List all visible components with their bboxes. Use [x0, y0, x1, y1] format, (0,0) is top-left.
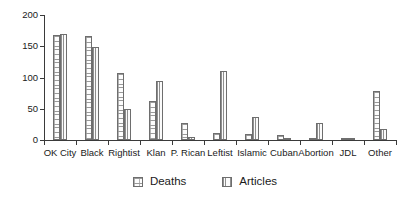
bar-deaths-black	[85, 36, 92, 140]
chart-legend: Deaths Articles	[0, 176, 410, 188]
y-tick-label: 0	[33, 135, 38, 145]
x-tick-mark	[300, 141, 301, 145]
x-axis-line	[44, 140, 397, 141]
bar-deaths-klan	[149, 101, 156, 140]
y-tick-label: 100	[22, 73, 38, 83]
legend-label-articles: Articles	[239, 176, 277, 188]
legend-item-deaths: Deaths	[133, 176, 186, 188]
x-tick-mark	[332, 141, 333, 145]
bar-deaths-islamic	[245, 134, 252, 140]
bar-deaths-abortion	[309, 138, 316, 140]
bar-deaths-cuban	[277, 135, 284, 140]
bar-deaths-ok-city	[53, 35, 60, 140]
bar-articles-other	[380, 129, 387, 140]
bar-articles-black	[92, 47, 99, 140]
bar-articles-rightist	[124, 109, 131, 140]
bar-articles-cuban	[284, 138, 291, 140]
y-tick-label: 150	[22, 41, 38, 51]
bar-articles-abortion	[316, 123, 323, 141]
y-tick-label: 50	[27, 104, 38, 114]
bar-deaths-leftist	[213, 133, 220, 141]
y-tick-label: 200	[22, 10, 38, 20]
x-tick-mark	[268, 141, 269, 145]
plot-area	[44, 15, 396, 140]
bar-articles-leftist	[220, 71, 227, 140]
bar-articles-islamic	[252, 117, 259, 140]
x-tick-mark	[108, 141, 109, 145]
x-tick-mark	[364, 141, 365, 145]
bar-articles-klan	[156, 81, 163, 140]
x-tick-mark	[172, 141, 173, 145]
articles-swatch-icon	[222, 177, 232, 187]
bar-deaths-p-rican	[181, 123, 188, 141]
x-tick-mark	[236, 141, 237, 145]
bar-articles-jdl	[348, 138, 355, 140]
bar-deaths-other	[373, 91, 380, 140]
x-tick-mark	[396, 141, 397, 145]
x-tick-label: Other	[352, 147, 408, 158]
x-tick-mark	[44, 141, 45, 145]
legend-item-articles: Articles	[222, 176, 277, 188]
bar-deaths-jdl	[341, 138, 348, 141]
x-tick-mark	[76, 141, 77, 145]
bar-articles-p-rican	[188, 137, 195, 140]
bar-chart: 050100150200 OK CityBlackRightistKlanP. …	[0, 0, 410, 204]
x-tick-mark	[140, 141, 141, 145]
legend-label-deaths: Deaths	[150, 176, 186, 188]
bar-deaths-rightist	[117, 73, 124, 140]
x-tick-mark	[204, 141, 205, 145]
bar-articles-ok-city	[60, 34, 67, 140]
deaths-swatch-icon	[133, 177, 143, 187]
